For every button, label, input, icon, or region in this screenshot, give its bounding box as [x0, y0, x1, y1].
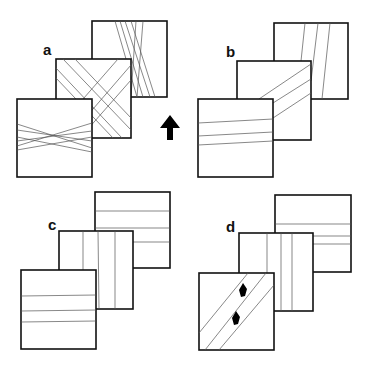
panel-d: d: [199, 195, 351, 350]
panel-c: c: [21, 192, 170, 349]
sheet-front-d: [199, 273, 274, 350]
sheet-front-b: [198, 99, 273, 177]
sheet-front-a: [17, 99, 92, 177]
panel-label-c: c: [48, 216, 56, 233]
panel-a: a: [17, 21, 167, 177]
panel-label-a: a: [43, 41, 52, 58]
panel-b: b: [198, 23, 348, 177]
panel-label-d: d: [226, 218, 235, 235]
figure-canvas: a: [0, 0, 370, 369]
panel-label-b: b: [226, 43, 235, 60]
sheet-front-c: [21, 270, 96, 349]
up-arrow-icon: [160, 115, 180, 140]
